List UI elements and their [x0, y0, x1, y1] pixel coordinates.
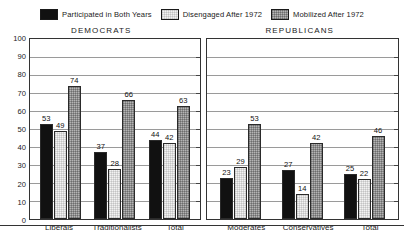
- y-axis-tick-label: 50: [18, 125, 26, 134]
- legend-entry: Participated in Both Years: [40, 9, 152, 20]
- bar-column: 42: [310, 39, 323, 219]
- bar-value-label: 42: [312, 134, 320, 142]
- bar-column: 28: [108, 39, 121, 219]
- solid-black-swatch: [40, 9, 58, 20]
- legend-entry: Mobilized After 1972: [271, 9, 364, 20]
- legend-entry: Disengaged After 1972: [161, 9, 262, 20]
- bar-value-label: 74: [70, 77, 78, 85]
- bar-column: 42: [163, 39, 176, 219]
- panel-body: 0102030405060708090100534974372866444263: [2, 38, 201, 220]
- bar-column: 53: [248, 39, 261, 219]
- plot-area: 232953271442252246: [206, 38, 400, 220]
- bar-column: 63: [177, 39, 190, 219]
- bar[interactable]: [94, 152, 107, 219]
- gray-checkered-swatch: [271, 9, 289, 20]
- bar-column: 46: [372, 39, 385, 219]
- bar-value-label: 37: [97, 143, 105, 151]
- panel-title: DEMOCRATS: [2, 24, 201, 38]
- bar[interactable]: [54, 131, 67, 219]
- bar[interactable]: [177, 106, 190, 219]
- bar-value-label: 25: [346, 165, 354, 173]
- bar[interactable]: [372, 136, 385, 219]
- bar-column: 25: [344, 39, 357, 219]
- bar[interactable]: [122, 100, 135, 219]
- chart-panels: DEMOCRATS0102030405060708090100534974372…: [0, 24, 404, 220]
- bar[interactable]: [68, 86, 81, 219]
- chart-panel-republicans: REPUBLICANS232953271442252246: [201, 24, 400, 220]
- bar[interactable]: [358, 179, 371, 219]
- bar-value-label: 27: [284, 161, 292, 169]
- bar-value-label: 22: [360, 170, 368, 178]
- bar-group: 252246: [333, 39, 395, 219]
- panel-title: REPUBLICANS: [201, 24, 400, 38]
- bar-value-label: 49: [56, 122, 64, 130]
- bar[interactable]: [149, 140, 162, 219]
- bar-value-label: 46: [374, 127, 382, 135]
- bar[interactable]: [40, 124, 53, 219]
- bar-group: 444263: [142, 39, 197, 219]
- bar[interactable]: [234, 167, 247, 219]
- bar-column: 44: [149, 39, 162, 219]
- bar[interactable]: [248, 124, 261, 219]
- bar[interactable]: [296, 194, 309, 219]
- bar-column: 29: [234, 39, 247, 219]
- y-axis-tick-label: 40: [18, 143, 26, 152]
- bar-value-label: 42: [165, 134, 173, 142]
- y-axis-tick-label: 20: [18, 179, 26, 188]
- bar-value-label: 23: [222, 169, 230, 177]
- legend-label: Participated in Both Years: [62, 10, 152, 19]
- bar-column: 49: [54, 39, 67, 219]
- bar[interactable]: [282, 170, 295, 219]
- bar-value-label: 28: [111, 160, 119, 168]
- legend-label: Mobilized After 1972: [293, 10, 364, 19]
- panel-body: 232953271442252246: [201, 38, 400, 220]
- bar-group: 232953: [210, 39, 272, 219]
- legend-label: Disengaged After 1972: [183, 10, 262, 19]
- bar-value-label: 44: [151, 131, 159, 139]
- light-dotted-swatch: [161, 9, 179, 20]
- bar-value-label: 29: [236, 158, 244, 166]
- chart-panel-democrats: DEMOCRATS0102030405060708090100534974372…: [2, 24, 201, 220]
- y-axis-tick-label: 30: [18, 161, 26, 170]
- bar-value-label: 66: [125, 91, 133, 99]
- bar-group: 372866: [88, 39, 143, 219]
- bar[interactable]: [163, 143, 176, 219]
- bar-column: 22: [358, 39, 371, 219]
- bar-group: 271442: [271, 39, 333, 219]
- bar-column: 53: [40, 39, 53, 219]
- bar[interactable]: [310, 143, 323, 219]
- bar[interactable]: [344, 174, 357, 219]
- bar-value-label: 14: [298, 185, 306, 193]
- bar[interactable]: [108, 169, 121, 219]
- bar-column: 27: [282, 39, 295, 219]
- y-axis-tick-label: 100: [13, 34, 26, 43]
- y-axis-tick-label: 80: [18, 70, 26, 79]
- bar-column: 37: [94, 39, 107, 219]
- y-axis-tick-label: 70: [18, 88, 26, 97]
- y-axis-tick-label: 90: [18, 52, 26, 61]
- bar-value-label: 53: [42, 115, 50, 123]
- bar[interactable]: [220, 178, 233, 219]
- plot-area: 534974372866444263: [29, 38, 201, 220]
- bar-groups: 232953271442252246: [207, 39, 399, 219]
- bar-column: 23: [220, 39, 233, 219]
- bar-groups: 534974372866444263: [30, 39, 200, 219]
- bar-column: 14: [296, 39, 309, 219]
- bar-column: 74: [68, 39, 81, 219]
- chart-legend: Participated in Both YearsDisengaged Aft…: [0, 0, 404, 24]
- y-axis-tick-label: 60: [18, 106, 26, 115]
- bar-value-label: 53: [250, 115, 258, 123]
- y-axis: 0102030405060708090100: [2, 38, 29, 220]
- y-axis-tick-label: 0: [22, 216, 26, 225]
- y-axis-tick-label: 10: [18, 197, 26, 206]
- bar-group: 534974: [33, 39, 88, 219]
- bar-column: 66: [122, 39, 135, 219]
- bottom-divider: [0, 225, 404, 226]
- bar-value-label: 63: [179, 97, 187, 105]
